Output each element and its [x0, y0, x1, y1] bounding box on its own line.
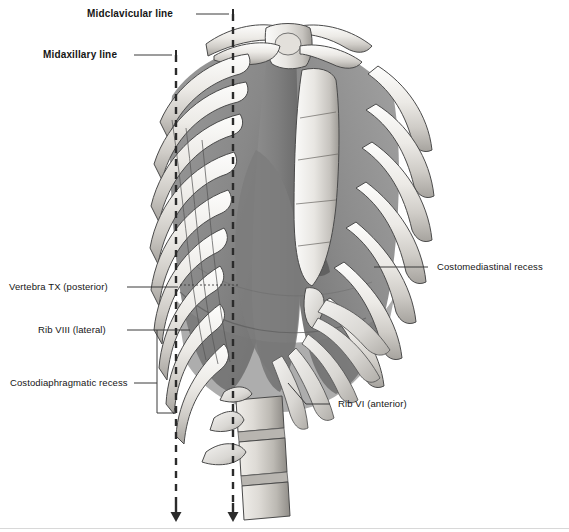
label-rib-viii: Rib VIII (lateral) — [38, 324, 106, 335]
anatomical-figure: Midclavicular line Midaxillary line Vert… — [0, 0, 569, 532]
label-rib-vi: Rib VI (anterior) — [338, 398, 407, 409]
label-costodiaphragmatic-recess: Costodiaphragmatic recess — [10, 377, 128, 388]
label-midclavicular-line: Midclavicular line — [87, 8, 173, 19]
midaxillary-down-arrow-icon — [171, 503, 182, 522]
midclavicular-down-arrow-icon — [228, 503, 239, 522]
vertebral-column — [202, 387, 290, 520]
label-costomediastinal-recess: Costomediastinal recess — [437, 261, 543, 272]
label-midaxillary-line: Midaxillary line — [43, 49, 117, 60]
bottom-rule — [0, 528, 569, 529]
label-vertebra-tx: Vertebra TX (posterior) — [9, 281, 108, 292]
